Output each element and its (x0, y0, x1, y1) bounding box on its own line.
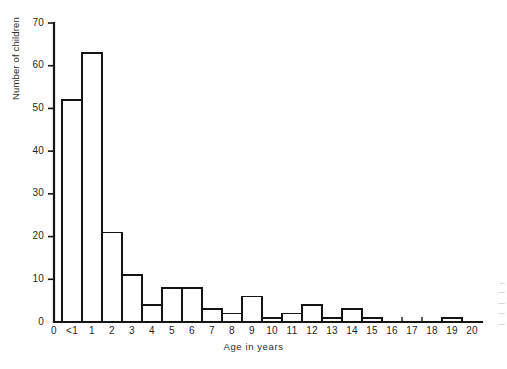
x-tick-label: 20 (458, 325, 486, 336)
scan-artifact (498, 313, 505, 314)
y-tick-label: 60 (18, 59, 44, 70)
histogram-bar (122, 275, 142, 322)
histogram-bar (282, 313, 302, 322)
plot-area (0, 0, 507, 369)
histogram-bar (362, 318, 382, 322)
histogram-bar (302, 305, 322, 322)
histogram-bar (82, 53, 102, 322)
y-tick-label: 50 (18, 102, 44, 113)
y-tick-label: 40 (18, 145, 44, 156)
histogram-figure: Number of children Age in years 01020304… (0, 0, 507, 369)
histogram-bar (342, 309, 362, 322)
histogram-bar (322, 318, 342, 322)
histogram-bar (142, 305, 162, 322)
histogram-bar (102, 232, 122, 322)
scan-artifact (498, 324, 505, 325)
scan-artifact (498, 292, 505, 293)
histogram-bar (262, 318, 282, 322)
histogram-bar (442, 318, 462, 322)
histogram-bar (162, 288, 182, 322)
histogram-bar (182, 288, 202, 322)
scan-artifact (498, 303, 505, 304)
histogram-bar (222, 313, 242, 322)
histogram-bar (202, 309, 222, 322)
scan-artifact (500, 283, 505, 284)
bar-series (62, 53, 462, 322)
histogram-bar (242, 296, 262, 322)
histogram-bar (62, 100, 82, 322)
y-tick-label: 30 (18, 187, 44, 198)
y-tick-label: 70 (18, 17, 44, 28)
y-tick-label: 20 (18, 230, 44, 241)
y-tick-label: 10 (18, 273, 44, 284)
